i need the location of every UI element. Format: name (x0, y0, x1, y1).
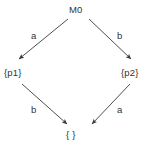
edge-p2-to-empty (92, 84, 130, 124)
node-label-p2: {p2} (121, 68, 139, 78)
edge-label-p1-to-empty: b (31, 105, 36, 115)
edge-label-p2-to-empty: a (117, 105, 122, 115)
edge-label-m0-to-p1: a (31, 31, 36, 41)
edge-p1-to-empty (22, 84, 67, 124)
node-label-m0: M0 (69, 5, 83, 15)
state-transition-diagram: M0 {p1} {p2} { } a b b a (0, 0, 152, 150)
edge-m0-to-p2 (89, 19, 131, 59)
node-label-empty-set: { } (66, 130, 76, 140)
edge-m0-to-p1 (19, 19, 68, 59)
node-label-p1: {p1} (4, 68, 22, 78)
edge-label-m0-to-p2: b (117, 31, 122, 41)
